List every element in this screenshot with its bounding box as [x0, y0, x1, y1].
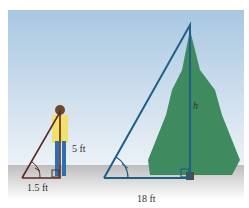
- tree-shadow-label: 18 ft: [137, 193, 156, 204]
- person-shadow-label: 1.5 ft: [27, 182, 48, 193]
- similar-triangles-diagram: [0, 0, 249, 208]
- person-height-label: 5 ft: [72, 143, 86, 154]
- tree-height-label: h: [193, 100, 198, 111]
